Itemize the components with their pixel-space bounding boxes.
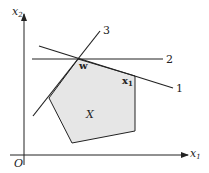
lp-diagram: 3 2 1 x2 x1 O w x1 X <box>0 0 209 173</box>
line-label-1: 1 <box>176 82 183 95</box>
line-label-2: 2 <box>166 53 173 66</box>
origin-label: O <box>14 157 23 170</box>
x-axis-label: x1 <box>190 147 201 161</box>
region-label: X <box>85 108 95 121</box>
y-axis-label: x2 <box>12 5 23 19</box>
point-w-label: w <box>78 60 88 71</box>
line-label-3: 3 <box>103 24 110 37</box>
